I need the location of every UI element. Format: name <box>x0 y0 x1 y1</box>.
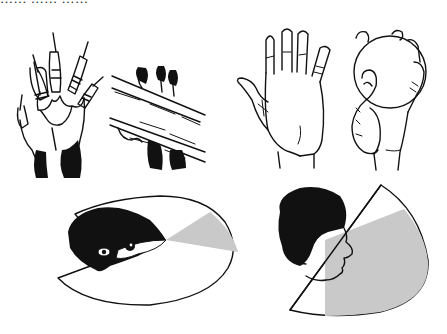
figure-illustration <box>0 0 447 334</box>
treeshrew-paws-on-branch-drawing <box>110 66 205 170</box>
treeshrew-paw-drawing <box>18 33 104 178</box>
human-open-hand-drawing <box>238 29 331 168</box>
human-visual-field-drawing <box>278 185 428 316</box>
treeshrew-visual-field-drawing <box>58 196 238 305</box>
human-hand-gripping-ball-drawing <box>352 30 426 170</box>
